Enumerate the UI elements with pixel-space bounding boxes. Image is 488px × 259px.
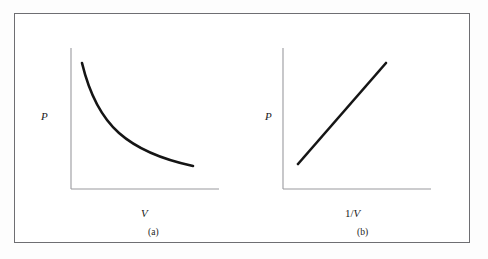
figure-root: P V (a) P 1/V (b) xyxy=(0,0,488,259)
panel-a-caption: (a) xyxy=(148,228,159,238)
panel-b: P 1/V (b) xyxy=(227,14,455,244)
panel-a: P V (a) xyxy=(15,14,243,244)
panel-a-x-axis-label: V xyxy=(141,208,148,219)
panel-a-y-axis-label: P xyxy=(41,111,48,122)
panel-b-plot xyxy=(227,14,455,244)
panel-b-y-axis-label: P xyxy=(265,111,272,122)
panel-a-x-axis-label-text: V xyxy=(141,207,148,219)
panel-b-caption: (b) xyxy=(357,228,368,238)
panel-b-x-axis-label: 1/V xyxy=(345,208,360,219)
panel-b-x-axis-label-text: V xyxy=(354,207,361,219)
panel-b-x-axis-label-prefix: 1/ xyxy=(345,207,354,219)
panel-a-plot xyxy=(15,14,243,244)
figure-frame: P V (a) P 1/V (b) xyxy=(14,13,470,243)
panel-b-line xyxy=(298,63,386,164)
panel-a-curve xyxy=(82,63,193,166)
